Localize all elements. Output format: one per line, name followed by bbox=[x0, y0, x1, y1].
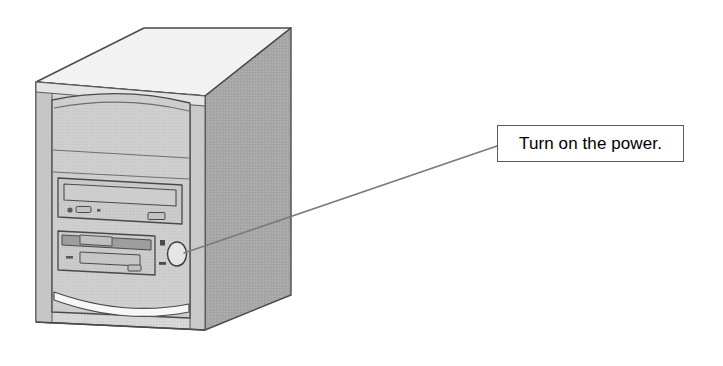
optical-lower-button bbox=[148, 213, 165, 220]
floppy-drive-bay bbox=[58, 231, 155, 275]
optical-marker-dot bbox=[97, 209, 101, 212]
hdd-led bbox=[159, 262, 166, 265]
callout-text: Turn on the power. bbox=[519, 134, 662, 153]
floppy-eject-button bbox=[128, 265, 141, 271]
callout-box: Turn on the power. bbox=[497, 125, 684, 162]
computer-tower-illustration bbox=[0, 0, 723, 366]
power-button bbox=[168, 242, 187, 266]
front-left-edge-strip bbox=[36, 82, 52, 323]
illustration-canvas: Turn on the power. bbox=[0, 0, 723, 366]
front-right-edge-strip bbox=[190, 94, 205, 330]
power-led bbox=[160, 240, 165, 246]
optical-drive-bay bbox=[58, 178, 182, 224]
floppy-marker-dash bbox=[66, 256, 73, 259]
optical-eject-button bbox=[76, 207, 91, 213]
optical-activity-led bbox=[67, 207, 72, 212]
